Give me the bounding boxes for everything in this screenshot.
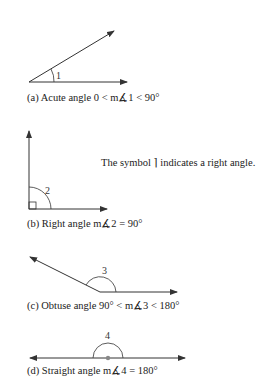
angle-label-2: 2: [45, 185, 50, 196]
vertex-dot: [106, 356, 110, 360]
acute-angle-figure: 1: [29, 31, 127, 82]
angle-diagrams: 1 2 3 4: [0, 0, 265, 379]
angle-label-1: 1: [56, 70, 61, 81]
right-angle-square-icon: [29, 202, 36, 209]
caption-right: (b) Right angle m∡2 = 90°: [27, 217, 142, 229]
straight-angle-figure: 4: [30, 330, 185, 360]
angle-label-4: 4: [105, 330, 110, 341]
right-angle-figure: 2: [29, 131, 107, 209]
caption-acute: (a) Acute angle 0 < m∡1 < 90°: [27, 91, 159, 103]
right-angle-note: The symbol ⌉ indicates a right angle.: [101, 156, 255, 168]
caption-straight: (d) Straight angle m∡4 = 180°: [27, 364, 158, 376]
angle-label-3: 3: [102, 265, 107, 276]
caption-obtuse: (c) Obtuse angle 90° < m∡3 < 180°: [27, 299, 179, 311]
obtuse-angle-figure: 3: [30, 257, 177, 292]
